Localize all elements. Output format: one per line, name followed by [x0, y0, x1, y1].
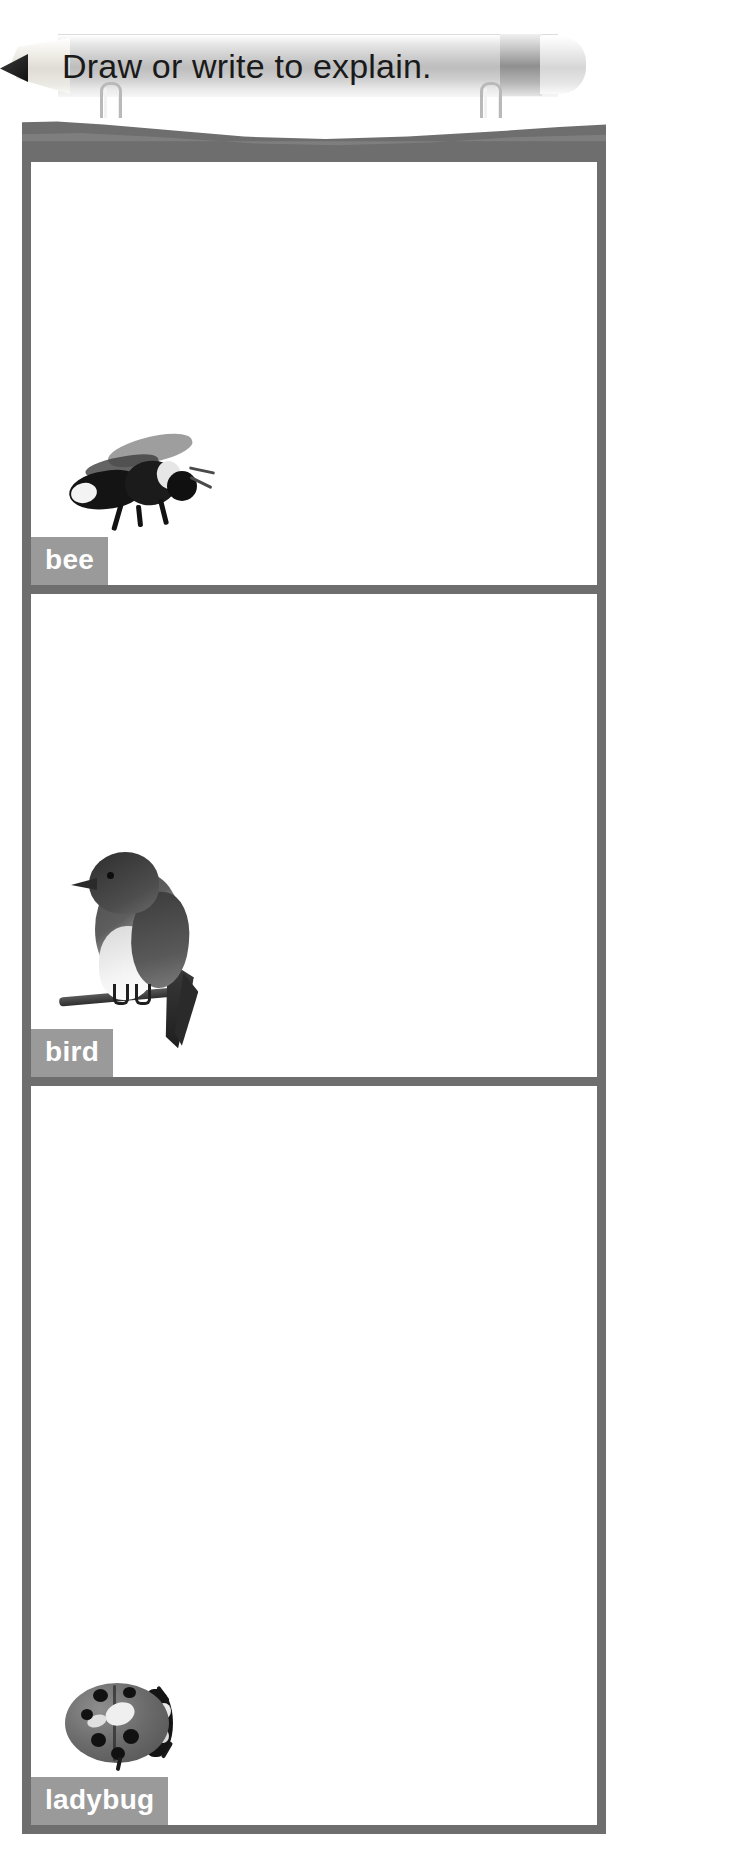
worksheet-panel-ladybug[interactable]: ladybug — [31, 1086, 597, 1825]
ladybug-spot — [81, 1709, 93, 1720]
bird-foot — [113, 984, 129, 1005]
bee-head — [167, 471, 197, 501]
bee-leg — [136, 505, 143, 527]
bird-photo — [59, 834, 239, 1049]
bee-photo — [63, 431, 203, 527]
ladybug-spot — [123, 1729, 139, 1744]
bird-foot — [135, 984, 151, 1005]
ladybug-spot — [123, 1687, 136, 1698]
panel-label-bee: bee — [31, 537, 108, 585]
worksheet-panel-bee[interactable]: bee — [31, 162, 597, 594]
bird-eye — [107, 872, 114, 879]
worksheet-panel-bird[interactable]: bird — [31, 594, 597, 1086]
bee-leg — [158, 499, 169, 525]
bird-beak — [71, 878, 97, 890]
notebook-torn-top-edge — [22, 118, 606, 166]
bird-head — [89, 852, 159, 914]
notebook: bee bird — [22, 118, 606, 1834]
panel-label-ladybug: ladybug — [31, 1777, 168, 1825]
ladybug-spot — [91, 1733, 106, 1747]
ladybug-photo — [65, 1679, 183, 1771]
pencil-header-banner: Draw or write to explain. — [0, 16, 640, 112]
notebook-page: bee bird — [22, 162, 606, 1834]
ladybug-spot — [93, 1689, 108, 1702]
panel-label-bird: bird — [31, 1029, 113, 1077]
bee-antenna — [189, 466, 215, 474]
pencil-eraser — [540, 36, 586, 94]
pencil-ferrule — [500, 34, 542, 96]
page-title: Draw or write to explain. — [62, 38, 492, 94]
